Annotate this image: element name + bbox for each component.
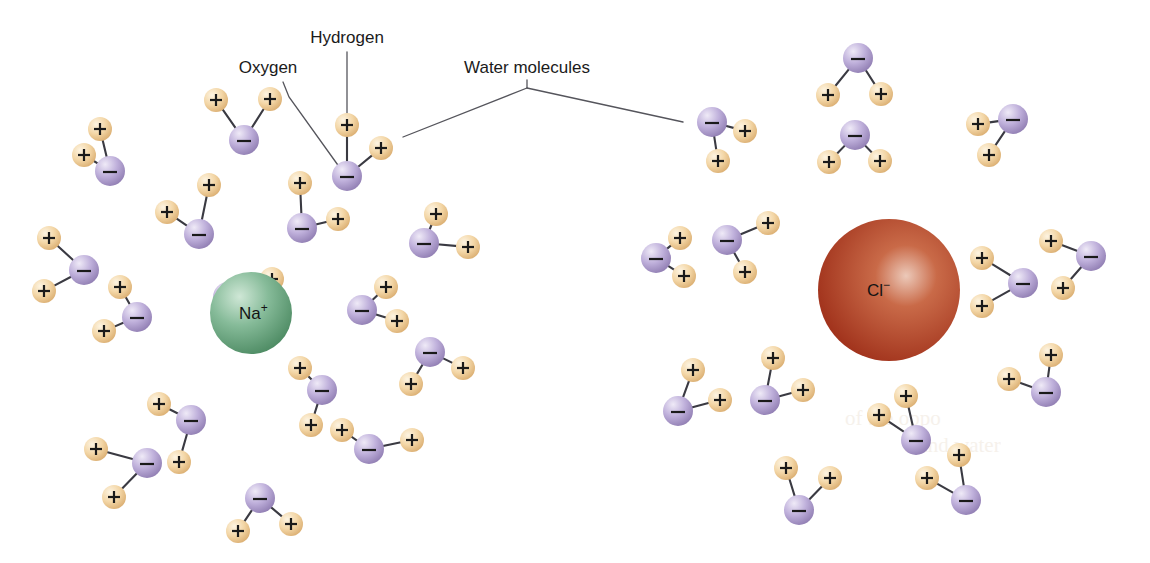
molecular-diagram-svg: of the oppos and water Na+Cl− HydrogenOx… [0,0,1150,563]
ion-sodium: Na+ [210,272,292,354]
water-molecule [966,104,1028,167]
water-molecule [641,226,696,288]
water-molecule [697,107,757,173]
water-leader-left [403,88,527,137]
water-molecule [409,202,480,259]
water-molecule [288,356,337,437]
water-molecule [84,437,162,509]
water-molecule [155,173,221,249]
water-molecule [204,87,282,155]
ion-layer: Na+Cl− [210,219,960,361]
water-molecule [750,346,815,415]
oxygen-leader [283,82,340,168]
water-molecule [347,275,409,333]
diagram-canvas: of the oppos and water Na+Cl− HydrogenOx… [0,0,1150,563]
label-layer: HydrogenOxygenWater molecules [239,28,590,77]
label-oxygen: Oxygen [239,58,298,77]
water-molecule [330,418,424,464]
water-molecule [226,483,303,543]
water-molecule [399,337,475,396]
water-molecule [332,113,393,191]
water-molecule [774,456,842,525]
water-molecule [663,358,732,426]
water-molecule [970,246,1038,318]
water-molecule [712,211,780,284]
label-hydrogen: Hydrogen [310,28,384,47]
water-molecule [816,43,893,107]
water-molecule [997,343,1063,407]
ion-chloride: Cl− [818,219,960,361]
water-molecule [72,117,125,186]
water-leader-right [527,88,683,122]
water-molecule [92,275,152,343]
ghost-text: of the oppo [845,406,941,430]
water-molecule [1039,229,1106,300]
water-molecule [32,226,99,303]
water-molecule [817,120,892,174]
label-water: Water molecules [464,58,590,77]
